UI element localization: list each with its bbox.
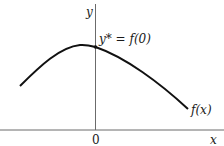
y-axis-label: y [85, 5, 93, 19]
function-plot: y y* = f(0) f(x) 0 x [0, 0, 224, 146]
point-y-star [94, 45, 98, 49]
annotation-y-star: y* = f(0) [98, 32, 151, 46]
x-axis-label: x [210, 133, 217, 146]
curve-f-of-x [20, 45, 188, 109]
curve-label: f(x) [190, 103, 212, 117]
origin-label: 0 [92, 133, 100, 146]
